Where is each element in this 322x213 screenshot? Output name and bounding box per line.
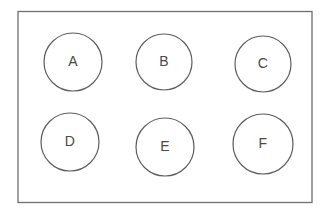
node-group-f[interactable]: F: [233, 114, 293, 174]
node-group-e[interactable]: E: [136, 118, 194, 176]
circle-c-label: C: [258, 55, 268, 71]
circle-f-label: F: [259, 135, 268, 151]
circle-a-label: A: [68, 53, 78, 69]
circle-b-label: B: [159, 53, 169, 69]
node-group-a[interactable]: A: [44, 33, 102, 91]
diagram-canvas: A B C D E F: [0, 0, 322, 213]
node-group-b[interactable]: B: [136, 34, 192, 90]
node-group-d[interactable]: D: [41, 113, 99, 171]
circles-diagram: A B C D E F: [0, 0, 322, 213]
circle-e-label: E: [160, 138, 170, 154]
circle-d-label: D: [65, 133, 75, 149]
node-group-c[interactable]: C: [235, 36, 291, 92]
